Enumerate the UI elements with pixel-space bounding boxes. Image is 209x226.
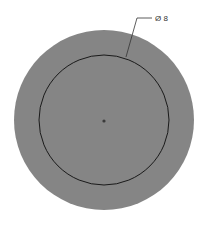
center-point: [102, 119, 105, 122]
dimension-label: Ø 8: [155, 14, 168, 23]
drawing-canvas: Ø 8: [0, 0, 209, 226]
